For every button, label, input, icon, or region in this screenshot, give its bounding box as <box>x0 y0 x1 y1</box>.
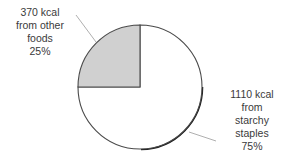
leader-line-other <box>76 15 96 42</box>
leader-line-starchy <box>189 132 216 141</box>
label-other-kcal: 370 kcal <box>6 6 74 19</box>
label-other-percent: 25% <box>6 45 74 58</box>
label-starchy-kcal: 1110 kcal <box>224 88 280 101</box>
label-starchy-staples: 1110 kcal from starchy staples 75% <box>224 88 280 153</box>
label-starchy-line3: starchy <box>224 114 280 127</box>
slice-other-foods <box>78 25 140 87</box>
label-other-line3: foods <box>6 32 74 45</box>
label-starchy-line4: staples <box>224 127 280 140</box>
label-starchy-line2: from <box>224 101 280 114</box>
label-other-foods: 370 kcal from other foods 25% <box>6 6 74 58</box>
label-starchy-percent: 75% <box>224 140 280 153</box>
label-other-line2: from other <box>6 19 74 32</box>
